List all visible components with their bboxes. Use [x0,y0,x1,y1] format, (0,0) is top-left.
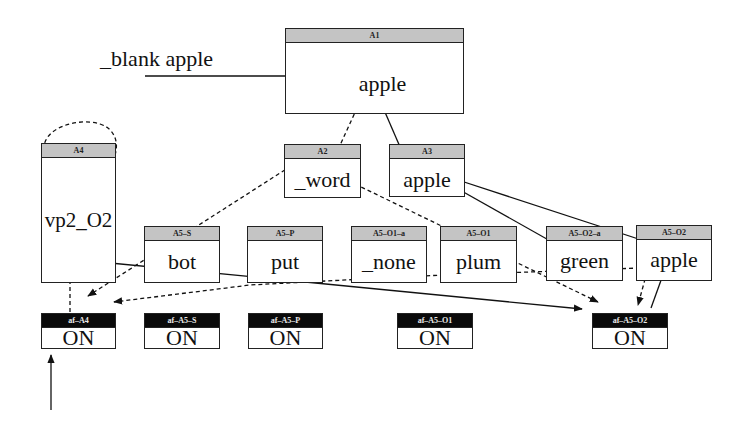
node-A5-O1-label: A5–O1 [441,227,516,241]
node-A4-label: A4 [42,144,115,158]
node-af-A4: af–A4 ON [41,313,116,349]
node-af-A5-O1: af–A5–O1 ON [397,313,473,349]
node-A2-label: A2 [285,145,360,159]
node-A1: A1 apple [285,28,464,114]
node-af-A5-P: af–A5–P ON [248,313,323,349]
node-A5-O2-value: apple [637,247,711,273]
node-A3-value: apple [390,167,464,193]
node-A5-P: A5–P put [247,226,323,283]
node-A5-O2-label: A5–O2 [637,226,711,240]
node-af-A4-value: ON [42,328,115,348]
node-A5-O2-a-label: A5–O2–a [547,227,622,241]
node-A5-O1-value: plum [441,249,516,275]
node-A4: A4 vp2_O2 [41,143,116,283]
node-A5-O2-a: A5–O2–a green [546,226,623,281]
node-A5-O1: A5–O1 plum [440,226,517,283]
node-A5-P-label: A5–P [248,227,322,241]
node-A5-P-value: put [248,249,322,275]
node-A5-O2: A5–O2 apple [636,225,712,281]
node-A5-O2-a-value: green [547,248,622,274]
node-A5-S-label: A5–S [145,227,219,241]
node-A4-value: vp2_O2 [42,208,115,233]
node-af-A5-O2: af–A5–O2 ON [592,313,668,349]
input-label: _blank apple [100,46,213,72]
node-A2: A2 _word [284,144,361,198]
node-A5-S: A5–S bot [144,226,220,283]
node-af-A5-S: af–A5–S ON [144,313,220,349]
node-A5-O1-a: A5–O1–a _none [351,226,427,283]
node-af-A5-O2-value: ON [593,328,667,348]
node-A3: A3 apple [389,144,465,197]
node-A1-label: A1 [286,29,463,43]
node-af-A5-O1-value: ON [398,328,472,348]
node-A3-label: A3 [390,145,464,159]
node-af-A5-S-value: ON [145,328,219,348]
node-A1-value: apple [286,71,463,97]
node-A5-S-value: bot [145,249,219,275]
node-A2-value: _word [285,167,360,193]
node-af-A5-P-value: ON [249,328,322,348]
node-A5-O1-a-label: A5–O1–a [352,227,426,241]
node-A5-O1-a-value: _none [352,249,426,275]
